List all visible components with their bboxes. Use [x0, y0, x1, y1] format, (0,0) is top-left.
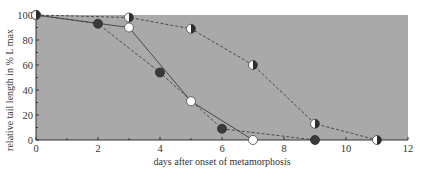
half-filled-circle-marker [249, 61, 258, 70]
y-tick-label: 0 [28, 135, 33, 146]
half-filled-circle-marker [32, 11, 41, 20]
filled-circle-marker [94, 19, 103, 28]
x-tick-label: 2 [95, 143, 100, 154]
plot-area [36, 15, 408, 140]
half-filled-circle-marker [125, 13, 134, 22]
filled-circle-marker [218, 124, 227, 133]
x-tick-label: 12 [403, 143, 414, 154]
x-tick-label: 4 [157, 143, 163, 154]
x-axis: 024681012 [33, 137, 413, 154]
y-axis: 020406080100 [17, 10, 39, 146]
tail-length-chart: 024681012 020406080100 days after onset … [0, 0, 424, 174]
x-tick-label: 6 [219, 143, 224, 154]
open-circle-marker [249, 136, 258, 145]
filled-circle-marker [156, 68, 165, 77]
y-tick-label: 100 [17, 10, 33, 21]
y-tick-label: 20 [23, 110, 34, 121]
half-filled-circle-marker [311, 119, 320, 128]
x-tick-label: 10 [341, 143, 352, 154]
open-circle-marker [125, 23, 134, 32]
y-tick-label: 60 [23, 60, 34, 71]
x-tick-label: 0 [33, 143, 38, 154]
filled-circle-marker [311, 136, 320, 145]
y-tick-label: 80 [23, 35, 34, 46]
x-tick-label: 8 [281, 143, 286, 154]
open-circle-marker [187, 97, 196, 106]
half-filled-circle-marker [187, 24, 196, 33]
x-axis-label: days after onset of metamorphosis [153, 156, 290, 167]
y-axis-label: relative tail length in % L max [4, 29, 15, 151]
y-tick-label: 40 [23, 85, 34, 96]
half-filled-circle-marker [373, 136, 382, 145]
